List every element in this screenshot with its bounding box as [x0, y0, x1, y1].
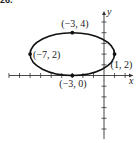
- point-label: (−7, 2): [33, 49, 60, 61]
- labeled-points: (−3, 4)(−7, 2)(1, 2)(−3, 0): [28, 18, 132, 90]
- point-marker: [28, 52, 32, 56]
- ellipse-graph: 26. (−3, 4)(−7, 2)(1, 2)(−3, 0) x y: [0, 0, 140, 143]
- point-marker: [113, 52, 117, 56]
- point-label: (−3, 4): [61, 18, 88, 30]
- point-label: (−3, 0): [59, 78, 86, 90]
- x-axis-label: x: [128, 75, 134, 86]
- point: (1, 2): [111, 52, 133, 71]
- point-marker: [70, 31, 74, 35]
- point-label: (1, 2): [111, 59, 133, 71]
- problem-number: 26.: [0, 0, 13, 5]
- point: (−7, 2): [28, 49, 60, 61]
- y-axis-label: y: [106, 6, 112, 17]
